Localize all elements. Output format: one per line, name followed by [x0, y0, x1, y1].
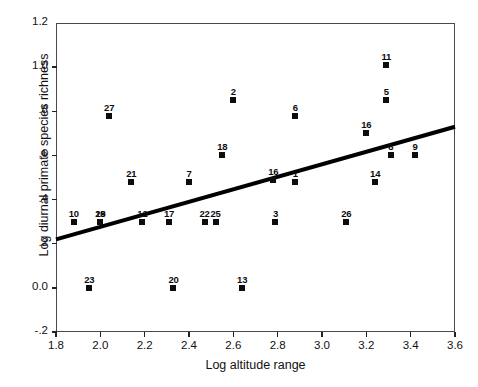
data-point: [71, 219, 77, 225]
x-tick-mark: [144, 332, 146, 337]
data-point: [292, 113, 298, 119]
data-point-label: 3: [260, 208, 290, 219]
data-point: [292, 179, 298, 185]
data-point: [97, 219, 103, 225]
x-tick-mark: [321, 332, 323, 337]
y-tick-mark: [52, 111, 57, 113]
data-point-label: 28: [85, 208, 115, 219]
x-tick-label: 3.0: [302, 339, 342, 351]
data-point-label: 16: [351, 119, 381, 130]
data-point-label: 7: [174, 168, 204, 179]
y-tick-mark: [52, 66, 57, 68]
y-tick-label: 1.0: [4, 59, 48, 71]
data-point-label: 14: [360, 168, 390, 179]
data-point: [388, 152, 394, 158]
data-point: [230, 97, 236, 103]
data-point: [202, 219, 208, 225]
data-point-label: 6: [280, 102, 310, 113]
data-point: [139, 219, 145, 225]
data-point: [166, 219, 172, 225]
x-tick-mark: [454, 332, 456, 337]
data-point: [186, 179, 192, 185]
data-point: [412, 152, 418, 158]
x-tick-label: 2.2: [125, 339, 165, 351]
y-tick-label: .2: [4, 236, 48, 248]
x-tick-mark: [100, 332, 102, 337]
y-tick-label: .8: [4, 103, 48, 115]
x-tick-label: 1.8: [36, 339, 76, 351]
x-tick-label: 2.8: [258, 339, 298, 351]
x-tick-mark: [410, 332, 412, 337]
y-tick-label: .6: [4, 147, 48, 159]
x-tick-label: 2.6: [213, 339, 253, 351]
data-point-label: 18: [207, 141, 237, 152]
data-point-label: 13: [227, 274, 257, 285]
data-point: [239, 285, 245, 291]
y-tick-mark: [52, 287, 57, 289]
data-point-label: 21: [116, 168, 146, 179]
data-point-label: 27: [94, 102, 124, 113]
data-point-label: 9: [400, 141, 430, 152]
data-point: [343, 219, 349, 225]
data-point-label: 11: [371, 51, 401, 62]
data-point-label: 23: [74, 274, 104, 285]
x-tick-label: 3.4: [391, 339, 431, 351]
x-axis-title: Log altitude range: [56, 358, 455, 372]
x-tick-mark: [366, 332, 368, 337]
data-point: [213, 219, 219, 225]
data-point: [170, 285, 176, 291]
x-tick-mark: [188, 332, 190, 337]
data-point: [270, 177, 276, 183]
data-point-label: 17: [154, 208, 184, 219]
data-point-label: 5: [371, 86, 401, 97]
x-tick-mark: [277, 332, 279, 337]
y-tick-label: .4: [4, 192, 48, 204]
y-tick-mark: [52, 199, 57, 201]
x-tick-label: 2.4: [169, 339, 209, 351]
data-point: [383, 62, 389, 68]
data-point-label: 12: [127, 208, 157, 219]
y-tick-mark: [52, 155, 57, 157]
data-point-label: 25: [201, 208, 231, 219]
data-point: [383, 97, 389, 103]
data-point-label: 20: [158, 274, 188, 285]
data-point: [86, 285, 92, 291]
scatter-plot-figure: Log diurnal primate species richness 1.2…: [0, 0, 478, 387]
data-point-label: 1: [280, 168, 310, 179]
data-point: [106, 113, 112, 119]
data-point-label: 26: [331, 208, 361, 219]
data-point: [372, 179, 378, 185]
x-tick-label: 2.0: [80, 339, 120, 351]
y-tick-label: 1.2: [4, 15, 48, 27]
data-point: [272, 219, 278, 225]
data-point: [363, 130, 369, 136]
data-point-label: 10: [59, 208, 89, 219]
x-tick-mark: [55, 332, 57, 337]
y-tick-label: -.2: [4, 324, 48, 336]
data-point-label: 2: [218, 86, 248, 97]
data-point: [219, 152, 225, 158]
x-tick-label: 3.6: [435, 339, 475, 351]
y-tick-mark: [52, 243, 57, 245]
x-tick-label: 3.2: [346, 339, 386, 351]
y-tick-label: 0.0: [4, 280, 48, 292]
x-tick-mark: [233, 332, 235, 337]
data-point: [128, 179, 134, 185]
